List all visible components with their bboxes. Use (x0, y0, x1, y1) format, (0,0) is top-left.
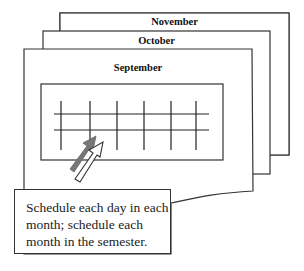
caption-box: Schedule each day in each month; schedul… (14, 189, 171, 254)
november-title: November (60, 16, 289, 27)
september-title: September (24, 62, 252, 73)
caption-line-1: Schedule each day in each (26, 199, 170, 216)
caption-line-3: month in the semester. (26, 233, 170, 250)
october-title: October (43, 35, 270, 46)
caption-line-2: month; schedule each (26, 216, 170, 233)
